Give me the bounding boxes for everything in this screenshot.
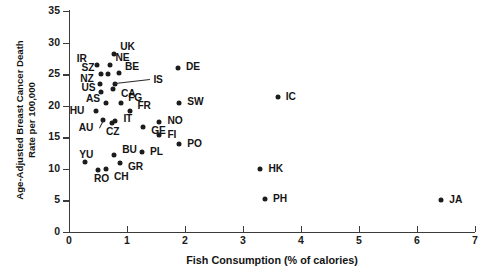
point-label-AS: AS (86, 93, 100, 104)
data-point-FG (119, 101, 124, 106)
data-point-CH (104, 166, 109, 171)
point-label-BU: BU (122, 144, 137, 155)
point-label-BE: BE (125, 61, 139, 72)
y-tick-label-25: 25 (36, 67, 60, 79)
data-point-NE (107, 63, 112, 68)
x-tick-7 (475, 226, 476, 232)
point-label-PO: PO (187, 138, 202, 149)
point-label-NO: NO (167, 115, 182, 126)
data-point-NO (157, 120, 162, 125)
data-point-GE (141, 125, 146, 130)
x-tick-label-6: 6 (407, 234, 427, 246)
leader-line-IS (115, 79, 150, 84)
y-axis-title-line1: Age-Adjusted Breast Cancer Death (14, 40, 25, 199)
point-label-IC: IC (286, 91, 296, 102)
y-tick-label-10: 10 (36, 162, 60, 174)
data-point-DK (106, 72, 111, 77)
data-point-IT (113, 118, 118, 123)
x-tick-label-7: 7 (465, 234, 485, 246)
data-point-BE (116, 70, 121, 75)
data-point-PO (177, 141, 182, 146)
y-tick-label-35: 35 (36, 4, 60, 16)
data-point-BU (112, 152, 117, 157)
point-label-YU: YU (79, 149, 93, 160)
point-label-UK: UK (120, 41, 135, 52)
y-axis-title-line2: Rate per 100,000 (26, 82, 37, 158)
x-axis-title: Fish Consumption (% of calories) (69, 254, 475, 266)
data-point-JA (439, 198, 444, 203)
data-point-DE (176, 65, 181, 70)
data-point-FI (157, 132, 162, 137)
x-tick-label-0: 0 (59, 234, 79, 246)
point-label-AU: AU (79, 122, 94, 133)
point-label-CH: CH (114, 171, 129, 182)
point-label-IS: IS (153, 74, 162, 85)
y-tick-label-30: 30 (36, 36, 60, 48)
y-tick-label-5: 5 (36, 193, 60, 205)
x-tick-label-3: 3 (233, 234, 253, 246)
point-label-FI: FI (167, 129, 176, 140)
point-label-FR: FR (137, 100, 150, 111)
point-label-IT: IT (123, 113, 132, 124)
point-label-GR: GR (128, 161, 143, 172)
point-label-PL: PL (150, 146, 163, 157)
data-point-HU (93, 108, 98, 113)
point-label-SZ: SZ (81, 62, 94, 73)
data-point-IC (275, 94, 280, 99)
point-label-CZ: CZ (106, 126, 119, 137)
data-point-PL (140, 150, 145, 155)
x-tick-label-4: 4 (291, 234, 311, 246)
y-axis-title: Age-Adjusted Breast Cancer Death Rate pe… (14, 15, 38, 225)
point-label-US: US (81, 82, 95, 93)
data-point-AS (104, 101, 109, 106)
data-point-SW (177, 100, 182, 105)
data-point-PH (263, 197, 268, 202)
point-label-RO: RO (94, 173, 109, 184)
data-point-CA (111, 87, 116, 92)
data-point-IR (94, 63, 99, 68)
y-tick-label-0: 0 (36, 225, 60, 237)
data-point-SZ (99, 72, 104, 77)
point-label-HU: HU (70, 105, 85, 116)
data-point-HK (258, 166, 263, 171)
plot-area: UKIRNEBESZNZISCAUSASFGFRHUAUCZITGENOFIYU… (69, 11, 475, 232)
data-point-GR (118, 160, 123, 165)
point-label-JA: JA (449, 194, 462, 205)
point-label-SW: SW (187, 96, 203, 107)
y-tick-label-15: 15 (36, 130, 60, 142)
point-label-HK: HK (268, 163, 283, 174)
x-tick-label-5: 5 (349, 234, 369, 246)
data-point-RO (96, 168, 101, 173)
scatter-chart: Age-Adjusted Breast Cancer Death Rate pe… (0, 0, 489, 276)
point-label-DE: DE (186, 61, 200, 72)
point-label-PH: PH (273, 193, 287, 204)
x-tick-label-1: 1 (117, 234, 137, 246)
x-tick-label-2: 2 (175, 234, 195, 246)
data-point-YU (83, 159, 88, 164)
y-tick-label-20: 20 (36, 99, 60, 111)
data-point-NZ (98, 81, 103, 86)
